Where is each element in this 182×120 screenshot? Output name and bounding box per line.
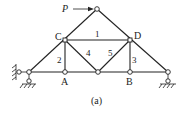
- member-5: [98, 40, 130, 72]
- member-label-3: 3: [132, 55, 137, 65]
- node-b: [128, 70, 133, 75]
- truss-diagram: P C D A B: [0, 0, 182, 120]
- label-d: D: [134, 30, 141, 41]
- load-arrow: P: [61, 3, 94, 14]
- figure-caption: (a): [91, 95, 102, 107]
- member-4: [65, 40, 98, 72]
- truss-members: [29, 9, 168, 72]
- arrow-head-icon: [88, 7, 94, 11]
- member-label-1: 1: [95, 29, 100, 39]
- node-a: [63, 70, 68, 75]
- node-c: [63, 38, 67, 42]
- label-c: C: [55, 31, 62, 42]
- load-label: P: [61, 3, 68, 14]
- member-label-2: 2: [57, 55, 62, 65]
- node-right: [166, 70, 171, 75]
- label-a: A: [61, 76, 69, 87]
- label-b: B: [126, 76, 133, 87]
- node-left: [27, 70, 32, 75]
- node-apex: [95, 7, 100, 12]
- node-mid: [96, 70, 101, 75]
- member-label-5: 5: [108, 48, 113, 58]
- node-d: [128, 38, 132, 42]
- left-support: [12, 64, 36, 88]
- member-label-4: 4: [86, 48, 91, 58]
